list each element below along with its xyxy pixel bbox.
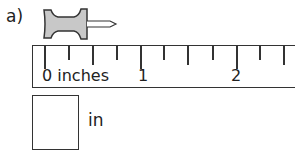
- ruler-tick: [283, 46, 285, 65]
- answer-input-box[interactable]: [32, 95, 79, 150]
- ruler-tick: [116, 46, 118, 60]
- question-label: a): [6, 6, 23, 26]
- ruler-tick: [187, 46, 189, 65]
- ruler-label: 0 inches: [42, 66, 109, 85]
- ruler-tick: [68, 46, 70, 60]
- ruler-tick: [92, 46, 94, 65]
- unit-label: in: [88, 110, 104, 130]
- inch-ruler: 0 inches12: [32, 45, 295, 88]
- ruler-label: 1: [138, 66, 148, 85]
- ruler-label: 2: [231, 66, 241, 85]
- ruler-tick: [259, 46, 261, 60]
- ruler-tick: [212, 46, 214, 60]
- pushpin-icon: [40, 6, 120, 42]
- ruler-tick: [163, 46, 165, 60]
